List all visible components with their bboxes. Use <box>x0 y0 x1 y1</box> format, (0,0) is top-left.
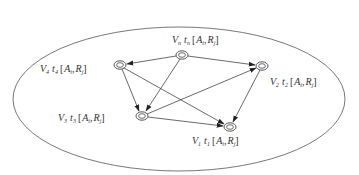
edge-v3-v2 <box>147 68 256 114</box>
node-v2 <box>256 62 268 70</box>
node-v3 <box>136 112 148 120</box>
node-v4 <box>114 61 126 69</box>
edge-v2-v1 <box>233 70 260 122</box>
edge-vn-v3 <box>146 59 180 111</box>
node-v1-outer-ring <box>224 123 236 131</box>
edge-vn-v4 <box>127 56 176 64</box>
edge-v3-v1 <box>148 117 223 126</box>
label-v1: V1t1[Ai,Rj] <box>192 135 239 147</box>
label-v4: V4t4[Ai,Rj] <box>40 63 87 75</box>
node-v4-outer-ring <box>114 61 126 69</box>
node-vn-outer-ring <box>176 51 188 59</box>
label-vn: Vntn[Ai,Rj] <box>172 34 219 46</box>
label-v3: V3t3[Ai,Rj] <box>58 112 105 124</box>
node-v2-outer-ring <box>256 62 268 70</box>
label-v2: V2t2[Ai,Rj] <box>270 76 317 88</box>
node-vn <box>176 51 188 59</box>
edge-vn-v2 <box>188 56 255 65</box>
node-v1 <box>224 123 236 131</box>
node-v3-outer-ring <box>136 112 148 120</box>
graph-diagram: Vntn[Ai,Rj] V4t4[Ai,Rj] V2t2[Ai,Rj] V3t3… <box>0 0 359 175</box>
